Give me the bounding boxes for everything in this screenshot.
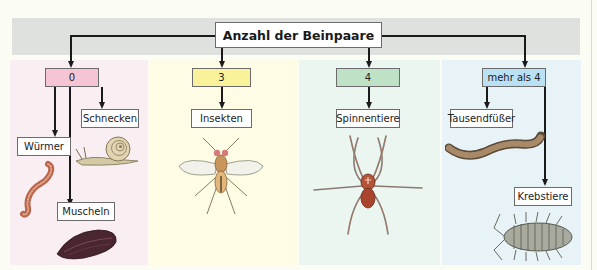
category-box-3: 3 bbox=[192, 68, 251, 87]
connector-line bbox=[368, 48, 370, 61]
woodlouse-illustration bbox=[490, 210, 580, 262]
arrow-down-icon bbox=[522, 61, 528, 68]
leaf-box-muscheln: Muscheln bbox=[57, 202, 115, 221]
page-edge-line bbox=[591, 0, 592, 270]
arrow-down-icon bbox=[68, 61, 74, 68]
arrow-down-icon bbox=[219, 61, 225, 68]
connector-line bbox=[368, 87, 370, 103]
connector-line bbox=[101, 87, 103, 103]
connector-line bbox=[382, 35, 525, 37]
worm-illustration bbox=[18, 158, 58, 220]
spider-illustration bbox=[312, 134, 424, 238]
millipede-illustration bbox=[445, 130, 545, 164]
connector-line bbox=[54, 87, 56, 131]
category-box-0: 0 bbox=[45, 68, 99, 87]
fly-illustration bbox=[177, 138, 265, 218]
connector-line bbox=[70, 35, 72, 61]
leaf-box-spinnentiere: Spinnentiere bbox=[336, 109, 400, 128]
leaf-box-insekten: Insekten bbox=[191, 109, 252, 128]
leaf-box-krebstiere: Krebstiere bbox=[514, 187, 572, 206]
mussel-illustration bbox=[54, 226, 120, 262]
diagram-title: Anzahl der Beinpaare bbox=[215, 22, 382, 48]
leaf-box-schnecken: Schnecken bbox=[81, 109, 139, 128]
arrow-down-icon bbox=[484, 102, 490, 109]
connector-line bbox=[221, 87, 223, 103]
connector-line bbox=[70, 35, 216, 37]
category-box-4: 4 bbox=[336, 68, 400, 87]
snail-illustration bbox=[72, 135, 142, 167]
arrow-down-icon bbox=[52, 130, 58, 137]
connector-line bbox=[524, 35, 526, 61]
arrow-down-icon bbox=[366, 102, 372, 109]
leaf-box-tausendfuesser: Tausendfüßer bbox=[450, 109, 513, 128]
arrow-down-icon bbox=[219, 102, 225, 109]
arrow-down-icon bbox=[542, 179, 548, 186]
connector-line bbox=[486, 87, 488, 103]
arrow-down-icon bbox=[366, 61, 372, 68]
connector-line bbox=[221, 48, 223, 61]
arrow-down-icon bbox=[99, 102, 105, 109]
category-box-more-than-4: mehr als 4 bbox=[482, 68, 546, 87]
leaf-box-wuermer: Würmer bbox=[17, 137, 71, 156]
